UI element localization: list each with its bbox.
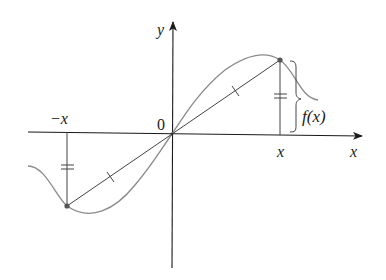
brace-fx — [290, 61, 301, 132]
point-negx-fnegx — [64, 203, 69, 208]
pos-x-label: x — [276, 143, 284, 160]
origin-label: 0 — [157, 116, 165, 133]
y-axis-label: y — [155, 21, 165, 39]
x-axis — [28, 132, 362, 136]
point-x-fx — [277, 57, 282, 62]
equal-tick-mark-left — [107, 172, 114, 182]
fx-label: f(x) — [302, 107, 326, 126]
origin-point — [171, 133, 174, 136]
neg-x-label: −x — [50, 110, 68, 127]
x-axis-label: x — [349, 143, 357, 160]
equal-tick-mark-right — [232, 86, 239, 96]
odd-function-diagram: y 0 −x x x f(x) — [0, 0, 386, 280]
y-axis — [172, 22, 173, 268]
